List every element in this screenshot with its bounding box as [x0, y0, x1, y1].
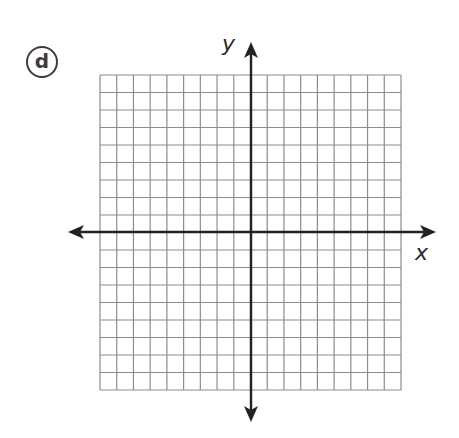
- y-axis-label: y: [222, 33, 235, 55]
- coordinate-plane: [0, 0, 459, 438]
- axes: [68, 42, 436, 422]
- x-axis-label: x: [415, 242, 428, 264]
